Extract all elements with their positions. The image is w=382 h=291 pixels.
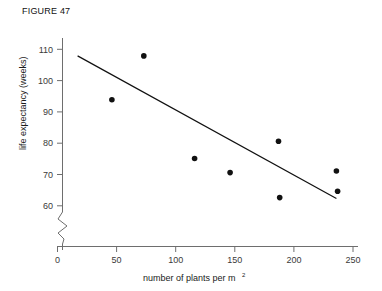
data-point [192,156,198,162]
y-tick-label-100: 100 [38,76,53,86]
x-tick-label-200: 200 [286,255,301,265]
data-point [227,170,233,176]
x-tick-label-0: 0 [55,255,60,265]
data-point [276,139,282,145]
y-tick-label-80: 80 [43,138,53,148]
y-tick-group [57,49,63,206]
data-point [141,53,147,59]
x-axis-title: number of plants per m [143,273,236,283]
x-axis-title-superscript: 2 [242,272,246,278]
figure-container: FIGURE 47 110 100 90 80 70 60 [0,0,382,291]
x-tick-label-50: 50 [112,255,122,265]
data-point [109,97,115,103]
data-point [334,168,340,174]
y-tick-labels: 110 100 90 80 70 60 [38,45,53,212]
data-point [277,195,283,201]
y-tick-label-90: 90 [43,107,53,117]
y-axis-break-icon [58,212,67,244]
y-axis-title: life expectancy (weeks) [18,56,28,150]
data-point [335,189,341,195]
y-tick-label-60: 60 [43,201,53,211]
y-tick-label-70: 70 [43,170,53,180]
x-tick-label-100: 100 [168,255,183,265]
x-tick-label-250: 250 [345,255,360,265]
data-point-group [109,53,340,200]
x-tick-group [58,247,354,253]
trend-line [78,56,337,199]
x-tick-label-150: 150 [227,255,242,265]
x-tick-labels: 0 50 100 150 200 250 [55,255,361,265]
scatter-plot: 110 100 90 80 70 60 0 50 100 150 200 250… [0,0,382,291]
y-tick-label-110: 110 [39,45,53,55]
